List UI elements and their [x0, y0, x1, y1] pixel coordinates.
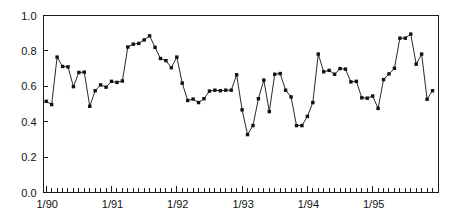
series-line: [46, 34, 432, 135]
data-point-marker: [382, 78, 385, 81]
data-point-marker: [311, 101, 314, 104]
data-point-marker: [322, 70, 325, 73]
line-chart: 0.00.20.40.60.81.0 1/901/911/921/931/941…: [0, 0, 459, 223]
data-point-marker: [300, 124, 303, 127]
x-tick-label: 1/93: [232, 198, 253, 210]
data-point-marker: [197, 101, 200, 104]
data-point-marker: [327, 69, 330, 72]
data-point-marker: [284, 88, 287, 91]
data-point-marker: [306, 115, 309, 118]
y-tick-label: 0.6: [21, 80, 36, 92]
data-point-marker: [333, 73, 336, 76]
data-point-marker: [414, 62, 417, 65]
data-point-marker: [355, 80, 358, 83]
data-point-marker: [153, 46, 156, 49]
data-point-marker: [72, 85, 75, 88]
data-point-marker: [398, 36, 401, 39]
data-point-marker: [191, 97, 194, 100]
x-tick-label: 1/92: [167, 198, 188, 210]
data-point-marker: [175, 55, 178, 58]
x-tick-label: 1/90: [37, 198, 58, 210]
y-tick-label: 0.0: [21, 187, 36, 199]
data-point-marker: [50, 103, 53, 106]
data-point-marker: [186, 99, 189, 102]
data-point-marker: [132, 42, 135, 45]
series-markers: [45, 32, 435, 136]
data-point-marker: [349, 80, 352, 83]
data-point-marker: [159, 57, 162, 60]
data-point-marker: [77, 71, 80, 74]
data-point-marker: [115, 81, 118, 84]
y-tick-label: 1.0: [21, 10, 36, 22]
data-point-marker: [110, 80, 113, 83]
data-point-marker: [61, 65, 64, 68]
data-point-marker: [142, 38, 145, 41]
data-point-marker: [88, 105, 91, 108]
data-point-marker: [93, 89, 96, 92]
chart-figure: 0.00.20.40.60.81.0 1/901/911/921/931/941…: [0, 0, 459, 223]
data-point-marker: [230, 88, 233, 91]
data-point-marker: [268, 110, 271, 113]
data-point-marker: [344, 67, 347, 70]
data-point-marker: [137, 42, 140, 45]
data-point-marker: [219, 89, 222, 92]
data-point-marker: [273, 73, 276, 76]
data-point-marker: [208, 89, 211, 92]
data-point-marker: [224, 88, 227, 91]
data-point-marker: [148, 34, 151, 37]
data-point-marker: [99, 83, 102, 86]
data-point-marker: [83, 70, 86, 73]
data-series: [45, 32, 435, 136]
y-tick-label: 0.2: [21, 151, 36, 163]
data-point-marker: [55, 55, 58, 58]
data-point-marker: [170, 66, 173, 69]
y-axis-labels: 0.00.20.40.60.81.0: [21, 10, 36, 199]
data-point-marker: [371, 94, 374, 97]
data-point-marker: [317, 52, 320, 55]
data-point-marker: [202, 97, 205, 100]
y-tick-label: 0.4: [21, 116, 36, 128]
data-point-marker: [246, 133, 249, 136]
y-axis-ticks: [44, 16, 49, 193]
data-point-marker: [360, 96, 363, 99]
data-point-marker: [213, 88, 216, 91]
data-point-marker: [278, 72, 281, 75]
data-point-marker: [431, 89, 434, 92]
data-point-marker: [420, 52, 423, 55]
x-tick-label: 1/95: [363, 198, 384, 210]
data-point-marker: [164, 59, 167, 62]
data-point-marker: [45, 100, 48, 103]
data-point-marker: [240, 108, 243, 111]
data-point-marker: [393, 67, 396, 70]
y-tick-label: 0.8: [21, 45, 36, 57]
data-point-marker: [66, 65, 69, 68]
x-axis-ticks: [46, 186, 432, 193]
data-point-marker: [235, 73, 238, 76]
data-point-marker: [104, 85, 107, 88]
data-point-marker: [257, 97, 260, 100]
data-point-marker: [366, 96, 369, 99]
data-point-marker: [387, 72, 390, 75]
data-point-marker: [425, 98, 428, 101]
x-tick-label: 1/91: [102, 198, 123, 210]
data-point-marker: [338, 67, 341, 70]
x-axis-labels: 1/901/911/921/931/941/95: [37, 198, 385, 210]
data-point-marker: [251, 124, 254, 127]
data-point-marker: [262, 78, 265, 81]
data-point-marker: [409, 32, 412, 35]
data-point-marker: [181, 81, 184, 84]
data-point-marker: [121, 79, 124, 82]
x-tick-label: 1/94: [298, 198, 319, 210]
data-point-marker: [404, 36, 407, 39]
data-point-marker: [295, 124, 298, 127]
data-point-marker: [126, 45, 129, 48]
data-point-marker: [376, 107, 379, 110]
data-point-marker: [289, 95, 292, 98]
